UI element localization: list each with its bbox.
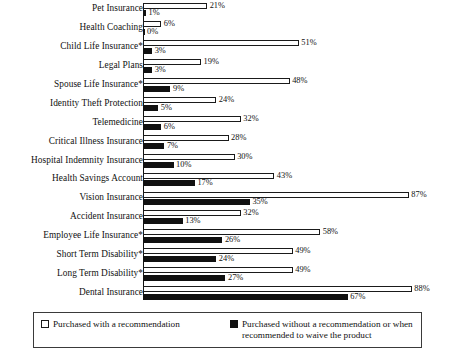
bar-value-label: 24% — [216, 96, 234, 104]
bar-light[interactable] — [143, 78, 290, 84]
bar-light[interactable] — [143, 267, 293, 273]
bar-group-light: 51% — [143, 40, 339, 46]
bar-group-dark: 0% — [143, 29, 185, 35]
bar-dark[interactable] — [143, 180, 195, 186]
bar-light[interactable] — [143, 59, 201, 65]
row-bars: 32%6% — [143, 113, 453, 132]
bar-light[interactable] — [143, 40, 299, 46]
bar-group-dark: 5% — [143, 105, 198, 111]
category-label: Health Savings Account — [52, 175, 143, 184]
category-label: Child Life Insurance* — [60, 43, 143, 52]
bar-dark[interactable] — [143, 143, 164, 149]
bar-dark[interactable] — [143, 237, 222, 243]
category-label: Telemedicine — [92, 118, 143, 127]
bar-value-label: 10% — [174, 160, 192, 168]
bar-group-light: 58% — [143, 229, 360, 235]
bar-group-light: 43% — [143, 173, 314, 179]
bar-value-label: 3% — [152, 47, 166, 55]
legend-swatch-dark-icon — [230, 320, 238, 328]
chart-row: Employee Life Insurance*58%26% — [0, 227, 453, 246]
bar-value-label: 17% — [195, 179, 213, 187]
row-bars: 48%9% — [143, 76, 453, 95]
bar-dark[interactable] — [143, 67, 152, 73]
row-bars: 58%26% — [143, 227, 453, 246]
bar-value-label: 6% — [161, 123, 175, 131]
bar-group-dark: 27% — [143, 275, 265, 281]
chart-row: Accident Insurance32%13% — [0, 208, 453, 227]
category-label: Spouse Life Insurance* — [54, 80, 143, 89]
bar-group-light: 87% — [143, 192, 449, 198]
bar-value-label: 67% — [348, 293, 366, 301]
bar-group-dark: 10% — [143, 162, 214, 168]
bar-group-light: 48% — [143, 78, 330, 84]
bar-value-label: 48% — [290, 77, 308, 85]
chart-row: Identity Theft Protection24%5% — [0, 94, 453, 113]
bar-dark[interactable] — [143, 218, 183, 224]
category-label: Health Coaching — [80, 24, 144, 33]
category-label: Dental Insurance — [79, 288, 143, 297]
bar-dark[interactable] — [143, 105, 158, 111]
bar-dark[interactable] — [143, 124, 161, 130]
bar-value-label: 49% — [293, 266, 311, 274]
bar-light[interactable] — [143, 286, 412, 292]
bar-value-label: 32% — [241, 209, 259, 217]
chart-row: Telemedicine32%6% — [0, 113, 453, 132]
bar-group-dark: 7% — [143, 143, 204, 149]
legend-entry[interactable]: Purchased without a recommendation or wh… — [230, 319, 416, 342]
bar-value-label: 43% — [274, 171, 292, 179]
bar-group-dark: 35% — [143, 199, 290, 205]
bar-value-label: 26% — [222, 236, 240, 244]
bar-dark[interactable] — [143, 294, 348, 300]
row-bars: 30%10% — [143, 151, 453, 170]
row-bars: 19%3% — [143, 57, 453, 76]
bar-value-label: 21% — [207, 1, 225, 9]
bar-group-light: 30% — [143, 154, 275, 160]
bar-value-label: 13% — [183, 217, 201, 225]
chart-rows: Pet Insurance21%1%Health Coaching6%0%Chi… — [0, 0, 453, 302]
chart-row: Dental Insurance88%67% — [0, 283, 453, 302]
legend-entry[interactable]: Purchased with a recommendation — [41, 319, 180, 331]
row-bars: 49%27% — [143, 264, 453, 283]
bar-light[interactable] — [143, 97, 216, 103]
bar-dark[interactable] — [143, 86, 170, 92]
category-label: Hospital Indemnity Insurance — [31, 156, 143, 165]
row-bars: 49%24% — [143, 246, 453, 265]
category-label: Identity Theft Protection — [50, 99, 143, 108]
bar-value-label: 32% — [241, 115, 259, 123]
legend-label: Purchased without a recommendation or wh… — [242, 319, 416, 342]
bar-group-dark: 67% — [143, 294, 388, 300]
chart-legend: Purchased with a recommendationPurchased… — [33, 312, 422, 348]
bar-group-light: 32% — [143, 210, 281, 216]
legend-label: Purchased with a recommendation — [53, 319, 180, 331]
chart-row: Health Savings Account43%17% — [0, 170, 453, 189]
bar-group-light: 88% — [143, 286, 452, 292]
bar-dark[interactable] — [143, 275, 225, 281]
bar-value-label: 87% — [409, 190, 427, 198]
category-label: Long Term Disability* — [57, 269, 143, 278]
chart-row: Health Coaching6%0% — [0, 19, 453, 38]
bar-dark[interactable] — [143, 256, 216, 262]
bar-light[interactable] — [143, 192, 409, 198]
row-bars: 21%1% — [143, 0, 453, 19]
bar-value-label: 27% — [225, 274, 243, 282]
bar-light[interactable] — [143, 135, 229, 141]
category-label: Legal Plans — [99, 61, 143, 70]
bar-dark[interactable] — [143, 199, 250, 205]
legend-swatch-light-icon — [41, 320, 49, 328]
bar-value-label: 7% — [164, 141, 178, 149]
bar-light[interactable] — [143, 248, 293, 254]
bar-value-label: 19% — [201, 58, 219, 66]
row-bars: 88%67% — [143, 283, 453, 302]
bar-dark[interactable] — [143, 162, 174, 168]
category-label: Short Term Disability* — [56, 250, 143, 259]
bar-value-label: 35% — [250, 198, 268, 206]
bar-value-label: 30% — [235, 153, 253, 161]
bar-value-label: 0% — [145, 28, 159, 36]
chart-row: Hospital Indemnity Insurance30%10% — [0, 151, 453, 170]
bar-group-dark: 9% — [143, 86, 210, 92]
bar-light[interactable] — [143, 116, 241, 122]
bar-group-dark: 1% — [143, 10, 186, 16]
bar-group-dark: 6% — [143, 124, 201, 130]
bar-dark[interactable] — [143, 48, 152, 54]
bar-group-light: 24% — [143, 97, 256, 103]
